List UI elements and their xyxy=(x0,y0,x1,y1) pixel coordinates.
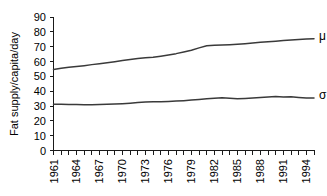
line-chart: 0102030405060708090 Fat supply/capita/da… xyxy=(0,0,327,196)
series-line-1 xyxy=(54,97,315,105)
x-tick-label: 1967 xyxy=(93,159,105,183)
series-label-1: σ xyxy=(319,88,327,102)
y-tick-label: 50 xyxy=(34,70,46,82)
x-tick-label: 1988 xyxy=(254,159,266,183)
y-tick-label: 0 xyxy=(40,145,46,157)
y-axis: 0102030405060708090 Fat supply/capita/da… xyxy=(8,11,54,157)
x-axis: 1961196419671970197319761979198219851988… xyxy=(48,151,316,184)
y-tick-label: 80 xyxy=(34,26,46,38)
y-tick-label: 70 xyxy=(34,41,46,53)
x-tick-label: 1982 xyxy=(208,159,220,183)
x-tick-label: 1964 xyxy=(70,159,82,183)
series-labels: μσ xyxy=(319,29,327,102)
y-tick-label: 30 xyxy=(34,100,46,112)
y-tick-label: 60 xyxy=(34,56,46,68)
chart-container: 0102030405060708090 Fat supply/capita/da… xyxy=(0,0,327,196)
x-tick-label: 1985 xyxy=(231,159,243,183)
x-tick-label: 1994 xyxy=(300,159,312,183)
y-tick-labels: 0102030405060708090 xyxy=(34,11,46,157)
x-tick-label: 1979 xyxy=(185,159,197,183)
y-tick-label: 10 xyxy=(34,130,46,142)
x-tick-label: 1973 xyxy=(139,159,151,183)
x-tick-label: 1976 xyxy=(162,159,174,183)
y-tick-marks xyxy=(50,17,54,151)
x-tick-label: 1970 xyxy=(116,159,128,183)
y-tick-label: 20 xyxy=(34,115,46,127)
x-tick-label: 1991 xyxy=(277,159,289,183)
series-label-0: μ xyxy=(319,29,326,43)
x-tick-label: 1961 xyxy=(48,159,60,183)
x-tick-marks xyxy=(54,151,315,156)
y-axis-title: Fat supply/capita/day xyxy=(8,32,20,136)
x-tick-labels: 1961196419671970197319761979198219851988… xyxy=(48,159,313,183)
y-tick-label: 90 xyxy=(34,11,46,23)
series-lines xyxy=(54,39,315,105)
series-line-0 xyxy=(54,39,315,70)
y-tick-label: 40 xyxy=(34,85,46,97)
